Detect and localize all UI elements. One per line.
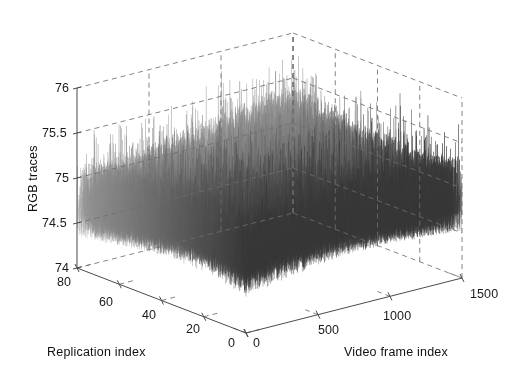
gridline-left-wall-z — [77, 33, 293, 88]
floor-tick-frame — [305, 310, 318, 315]
z-tick-75-5: 75.5 — [42, 126, 67, 140]
z-tick-74: 74 — [55, 261, 69, 275]
z-tick-76: 76 — [55, 81, 69, 95]
z-axis-title: RGB traces — [26, 145, 40, 212]
floor-tick-rep — [119, 280, 136, 284]
x-tick-40: 40 — [142, 308, 156, 322]
floor-tick-rep — [162, 296, 179, 300]
x-tick-20: 20 — [186, 322, 200, 336]
y-tick-1500: 1500 — [470, 287, 498, 301]
y-tick-0: 0 — [253, 336, 260, 350]
y-tick-1000: 1000 — [383, 309, 411, 323]
y-axis-title: Video frame index — [344, 345, 448, 359]
y-tick-500: 500 — [318, 323, 339, 337]
floor-tick-rep — [204, 312, 221, 316]
z-tick-74-5: 74.5 — [42, 216, 67, 230]
x-tick-0: 0 — [228, 336, 235, 350]
x-axis-title: Replication index — [47, 345, 146, 359]
gridline-left-wall-z — [77, 78, 293, 133]
z-tick-75: 75 — [55, 171, 69, 185]
floor-tick-frame — [377, 291, 390, 296]
gridline-left-wall-z — [77, 123, 293, 178]
gridline-left-wall-z — [77, 168, 293, 223]
figure-3d-mesh-plot: 76 75.5 75 74.5 74 80 60 40 20 0 0 500 1… — [0, 0, 523, 380]
y-axis-line — [246, 278, 462, 333]
axes-frame — [0, 0, 523, 380]
gridline-left-wall-z — [77, 213, 293, 268]
x-tick-80: 80 — [57, 275, 71, 289]
x-tick-60: 60 — [99, 295, 113, 309]
